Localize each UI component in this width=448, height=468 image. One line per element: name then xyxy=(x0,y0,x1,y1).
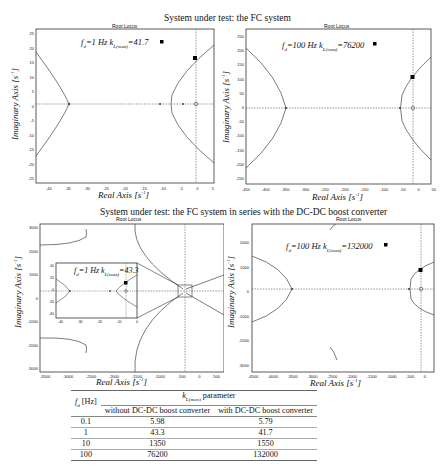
inset-x-tick-labels: -40-30-20-100 xyxy=(58,320,138,324)
x-axis-label: Real Axis [s-1] xyxy=(310,378,361,388)
kL-group-header: kL(max) parameter xyxy=(101,391,317,406)
plot-fc-1hz: Root Locus fd=1 Hz kL(max)=41.7 -40-35-3… xyxy=(0,15,224,200)
x-axis-label: Real Axis [s-1] xyxy=(96,377,147,387)
x-axis-label: Real Axis [s-1] xyxy=(312,192,363,202)
plot-annotation: fd=100 Hz kL(max)=132000 xyxy=(286,241,373,253)
plot-fc-dcdc-100hz: Root Locus fd=100 Hz kL(max)=132000 -450… xyxy=(224,215,448,385)
plot-annotation: fd=100 Hz kL(max)=76200 xyxy=(282,40,364,52)
y-axis-label: Imaginary Axis [s-1] xyxy=(10,49,20,159)
inset-y-tick-labels: 40200-20-40 xyxy=(45,264,54,316)
plot-annotation: fd=1 Hz kL(max)=41.7 xyxy=(81,37,148,49)
col-without-dcdc: without DC-DC boost converter xyxy=(101,405,214,416)
y-tick-labels: 200010000-1000-2000-3000 xyxy=(237,240,249,368)
table-row: 143.341.7 xyxy=(71,427,317,438)
y-axis-label: Imaginary Axis [s-1] xyxy=(226,237,236,347)
col-with-dcdc: with DC-DC boost converter xyxy=(214,405,317,416)
kL-parameter-table: fd [Hz] kL(max) parameter without DC-DC … xyxy=(71,390,317,461)
plot-annotation: fd=1 Hz kL(max)=43.3 xyxy=(74,266,138,277)
y-axis-label: Imaginary Axis [s-1] xyxy=(13,237,23,347)
table-row: 10076200132000 xyxy=(71,449,317,460)
table-row: 0.15.985.79 xyxy=(71,416,317,427)
y-axis-label: Imaginary Axis [s-1] xyxy=(221,52,231,162)
y-tick-labels: 2520151050-5-10-15-20-25 xyxy=(24,31,34,181)
table-row: 1013501550 xyxy=(71,438,317,449)
plot-fc-100hz: Root Locus fd=100 Hz kL(max)=76200 -450-… xyxy=(224,15,448,200)
y-tick-labels: 250200150100500-50-100-150-200-250 xyxy=(232,34,244,181)
x-axis-label: Real Axis [s-1] xyxy=(98,190,149,200)
y-tick-labels: 3000200010000-1000-2000-3000 xyxy=(26,225,38,371)
plot-fc-dcdc-1hz: Root Locus fd=1 Hz kL(max)=43.3 -40-30-2… xyxy=(0,215,224,385)
fd-header: fd [Hz] xyxy=(71,391,101,417)
